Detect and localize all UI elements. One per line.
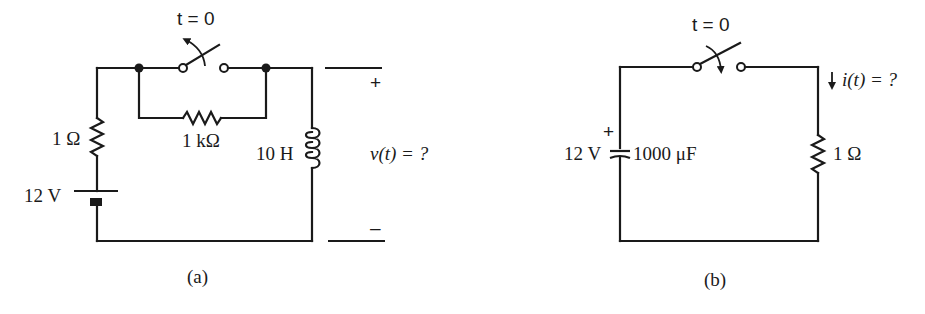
caption-b: (b) [704,269,726,291]
output-a-minus: – [370,217,381,238]
wire-a-parallel-right [221,68,266,118]
battery-a-label: 12 V [24,185,61,206]
resistor-b [812,135,824,173]
output-a-plus: + [370,72,381,93]
circuit-a: t = 0 1 Ω 1 kΩ 10 H 12 V + – v(t) = ? (a… [24,8,429,288]
circuit-b: t = 0 + 12 V 1000 μF 1 Ω i(t) = ? (b) [564,14,898,291]
resistor-a-parallel [183,112,221,124]
resistor-a-series [91,118,103,156]
caption-a: (a) [187,266,208,288]
inductor-a-label: 10 H [256,143,294,164]
resistor-b-label: 1 Ω [833,143,861,164]
resistor-a-parallel-label: 1 kΩ [182,130,220,151]
resistor-a-series-label: 1 Ω [52,128,80,149]
capacitor-b-voltage-label: 12 V [564,143,601,164]
current-b-question: i(t) = ? [842,69,898,91]
battery-a-short-plate [90,198,102,206]
output-a-question: v(t) = ? [370,143,429,165]
capacitor-b-polarity: + [603,121,614,142]
switch-a-label: t = 0 [177,8,215,29]
switch-b-terminal-right [737,63,745,71]
capacitor-b-label: 1000 μF [633,143,697,164]
switch-a-terminal-right [220,64,228,72]
switch-b-label: t = 0 [692,14,730,35]
wire-a-parallel-left [139,68,183,118]
inductor-a [306,128,320,168]
